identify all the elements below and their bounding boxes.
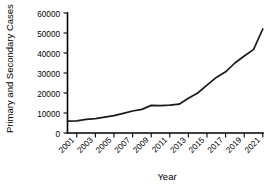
y-tick-label: 40000 bbox=[37, 50, 60, 59]
y-tick-label: 60000 bbox=[37, 10, 60, 19]
y-tick-label: 50000 bbox=[37, 30, 60, 39]
line-chart: Primary and Secondary Cases 60000 50000 … bbox=[0, 0, 272, 192]
x-tick-label: 2007 bbox=[113, 135, 133, 155]
data-series-line bbox=[68, 29, 263, 121]
y-tick-label: 30000 bbox=[37, 70, 60, 79]
x-tick-label: 2013 bbox=[169, 135, 189, 155]
x-tick-label: 2011 bbox=[150, 135, 169, 154]
y-tick-label: 10000 bbox=[37, 110, 60, 119]
x-tick-labels: 2001 2003 2005 2007 2009 2011 2013 2015 … bbox=[57, 135, 263, 155]
x-tick-label: 2005 bbox=[94, 135, 114, 155]
y-tick-label: 0 bbox=[55, 130, 60, 139]
x-tick-label: 2021 bbox=[243, 135, 263, 155]
x-tick-label: 2003 bbox=[76, 135, 96, 155]
x-tick-label: 2019 bbox=[224, 135, 244, 155]
x-tick-label: 2009 bbox=[131, 135, 151, 155]
y-tick-label: 20000 bbox=[37, 90, 60, 99]
x-tick-label: 2017 bbox=[206, 135, 226, 155]
chart-figure: Primary and Secondary Cases 60000 50000 … bbox=[0, 0, 272, 192]
x-axis-title: Year bbox=[157, 171, 176, 182]
x-tick-label: 2015 bbox=[187, 135, 207, 155]
y-axis-title: Primary and Secondary Cases bbox=[4, 4, 15, 133]
